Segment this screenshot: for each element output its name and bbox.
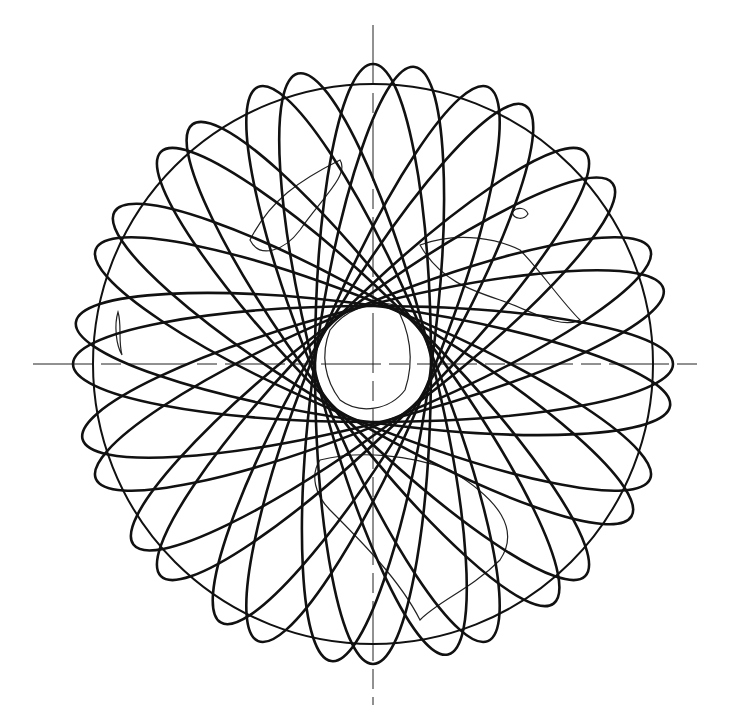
- orbit-diagram: [0, 0, 733, 724]
